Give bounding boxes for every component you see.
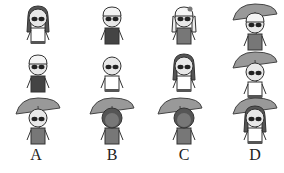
option-d-figure-2	[233, 52, 277, 98]
option-a-figure-3	[16, 98, 60, 144]
option-b-figure-3	[90, 98, 134, 144]
option-a-figure-1	[27, 6, 49, 44]
option-b-figure-2	[101, 57, 123, 92]
option-c-figure-1	[172, 7, 196, 45]
option-c-figure-3	[158, 98, 202, 144]
option-label-a[interactable]: A	[26, 146, 46, 164]
option-c-figure-2	[173, 54, 195, 92]
option-d-figure-1	[233, 4, 277, 50]
option-d-figure-3	[233, 98, 277, 144]
option-label-d[interactable]: D	[245, 146, 265, 164]
option-label-c[interactable]: C	[174, 146, 194, 164]
option-b-figure-1	[101, 7, 123, 44]
option-label-b[interactable]: B	[102, 146, 122, 164]
option-a-figure-2	[27, 55, 49, 92]
